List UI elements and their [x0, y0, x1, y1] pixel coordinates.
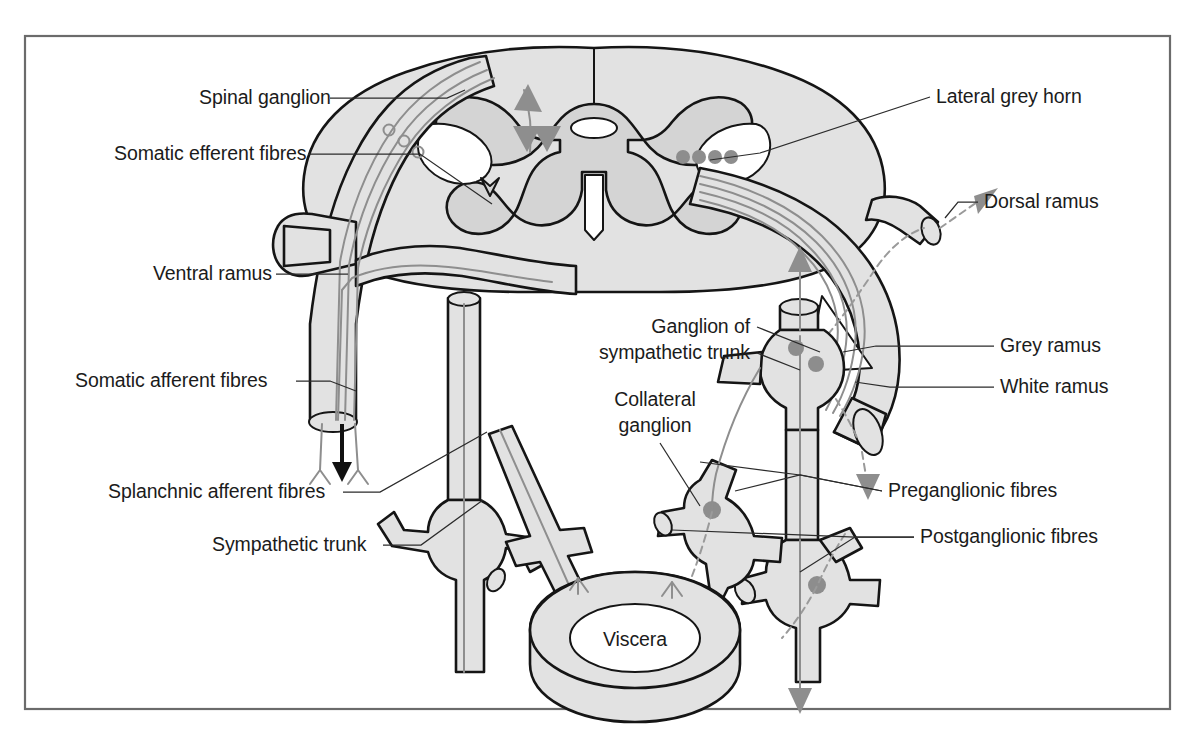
figure-root: the nervous system and autonomic innerva…	[0, 0, 1186, 737]
label-postganglionic-fibres: Postganglionic fibres	[920, 525, 1098, 547]
ventral-ramus-stub-left	[284, 226, 330, 266]
label-sympathetic-trunk: Sympathetic trunk	[212, 533, 367, 555]
ventral-median-fissure	[585, 175, 603, 240]
central-canal	[571, 118, 617, 138]
label-collateral-ganglion-2: ganglion	[619, 414, 692, 436]
sympathetic-trunk-right-descending	[786, 430, 818, 540]
label-ventral-ramus: Ventral ramus	[153, 262, 272, 284]
label-ganglion-symp-trunk-2: sympathetic trunk	[599, 341, 750, 363]
label-ganglion-symp-trunk-1: Ganglion of	[651, 315, 750, 337]
label-grey-ramus: Grey ramus	[1000, 334, 1101, 356]
label-dorsal-ramus: Dorsal ramus	[984, 190, 1099, 212]
label-lateral-grey-horn: Lateral grey horn	[936, 85, 1082, 107]
label-viscera: Viscera	[603, 628, 667, 650]
anatomy-diagram: the nervous system and autonomic innerva…	[0, 0, 1186, 737]
label-somatic-afferent: Somatic afferent fibres	[75, 369, 268, 391]
label-preganglionic-fibres: Preganglionic fibres	[888, 479, 1058, 501]
label-spinal-ganglion: Spinal ganglion	[199, 86, 331, 108]
label-white-ramus: White ramus	[1000, 375, 1109, 397]
label-somatic-efferent: Somatic efferent fibres	[114, 142, 307, 164]
lower-ganglion-cell-body	[808, 576, 826, 594]
label-splanchnic-afferent: Splanchnic afferent fibres	[108, 480, 325, 502]
ventral-ramus-cut-end	[309, 412, 357, 432]
label-collateral-ganglion-1: Collateral	[614, 388, 695, 410]
